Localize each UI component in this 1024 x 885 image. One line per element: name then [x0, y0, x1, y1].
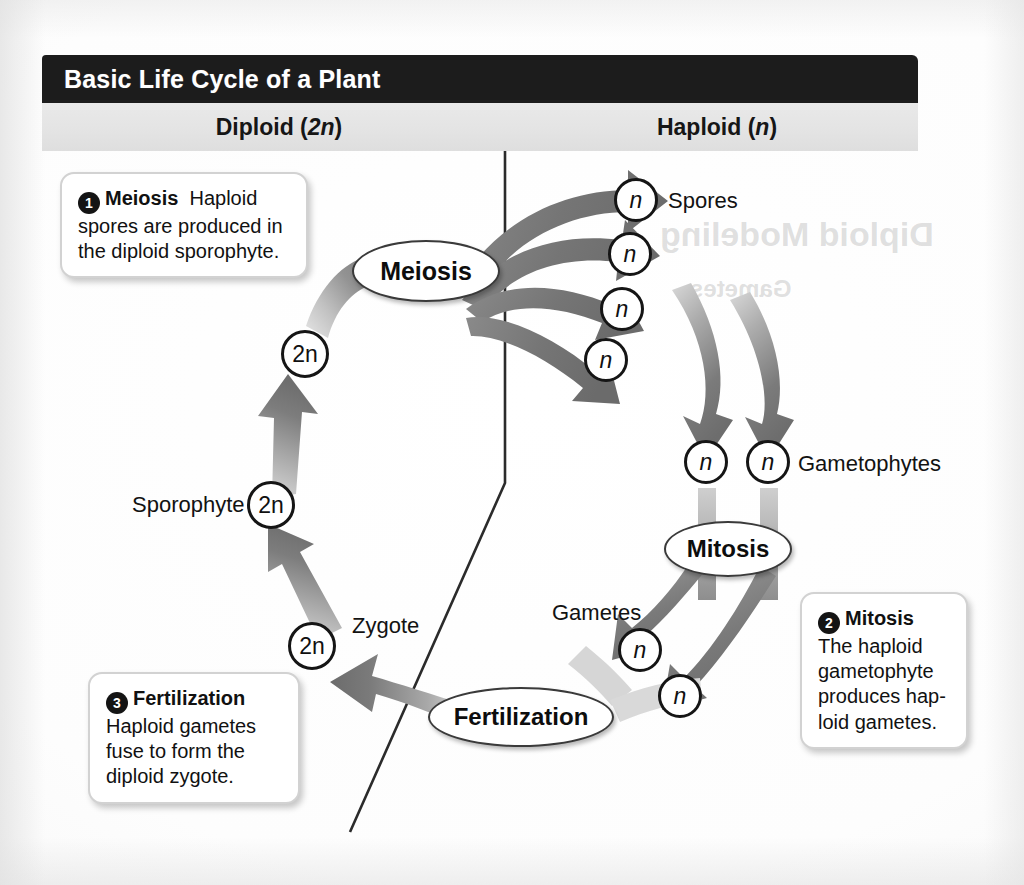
spore-token-1: n: [614, 178, 658, 222]
stage-fertilization-label: Fertilization: [454, 703, 589, 731]
callout-fertilization-body: Haploid gametes fuse to form the diploid…: [106, 715, 256, 787]
gametophyte-token-1: n: [684, 440, 728, 484]
scanned-page: Diploid Modeling Gametes Basic Life Cycl…: [0, 0, 1024, 885]
gametophytes-label: Gametophytes: [798, 451, 941, 477]
zygote-token: 2n: [288, 622, 336, 670]
stage-mitosis-label: Mitosis: [687, 535, 770, 563]
callout-mitosis: 2MitosisThe haploid gametophyte produces…: [800, 592, 968, 749]
callout-mitosis-keyword: Mitosis: [845, 607, 914, 629]
sporophyte-label: Sporophyte: [132, 492, 245, 518]
gamete-token-2: n: [658, 674, 702, 718]
gametophyte-token-2: n: [746, 440, 790, 484]
spore-token-2: n: [608, 232, 652, 276]
spore-mother-cell-token: 2n: [281, 330, 329, 378]
spore-to-gametophyte-arrow-1: [672, 283, 733, 460]
callout-meiosis: 1Meiosis Haploid spores are produced in …: [60, 172, 308, 278]
callout-meiosis-keyword: Meiosis: [105, 187, 178, 209]
stage-meiosis[interactable]: Meiosis: [352, 240, 500, 302]
spore-token-3: n: [600, 287, 644, 331]
spores-label: Spores: [668, 188, 738, 214]
sporophyte-to-spore-mother-arrow: [258, 374, 318, 498]
spore-to-gametophyte-arrow-2: [730, 292, 794, 461]
callout-mitosis-body: The haploid gametophyte produces hap-loi…: [818, 635, 946, 733]
stage-fertilization[interactable]: Fertilization: [428, 687, 614, 747]
callout-fertilization-keyword: Fertilization: [133, 687, 245, 709]
spore-token-4: n: [584, 338, 628, 382]
stage-meiosis-label: Meiosis: [380, 257, 472, 286]
sporophyte-token: 2n: [247, 481, 295, 529]
gamete-token-1: n: [618, 628, 662, 672]
callout-meiosis-number: 1: [78, 192, 100, 214]
zygote-label: Zygote: [352, 613, 419, 639]
stage-mitosis[interactable]: Mitosis: [664, 521, 792, 577]
callout-fertilization: 3FertilizationHaploid gametes fuse to fo…: [88, 672, 300, 804]
callout-mitosis-number: 2: [818, 612, 840, 634]
callout-fertilization-number: 3: [106, 692, 128, 714]
gametes-label: Gametes: [552, 600, 641, 626]
